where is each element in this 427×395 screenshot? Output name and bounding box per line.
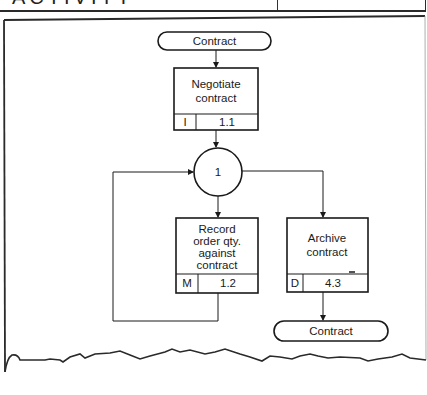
- process-number: 1.2: [220, 277, 236, 289]
- junction-circle: 1: [194, 148, 242, 196]
- process-number: 1.1: [219, 116, 235, 128]
- process-archive-contract: Archive contract D 4.3: [287, 218, 368, 292]
- process-code: M: [182, 277, 192, 289]
- process-code: D: [291, 277, 299, 289]
- process-label-line: Negotiate: [191, 78, 240, 90]
- process-code: I: [183, 116, 186, 128]
- process-label-line: Archive: [308, 232, 346, 244]
- process-negotiate-contract: Negotiate contract I 1.1: [174, 68, 258, 130]
- process-label-line: Record: [198, 223, 235, 235]
- flow-diagram: Contract Negotiate contract I 1.1 1 Reco…: [0, 0, 427, 395]
- process-label-line: contract: [196, 92, 238, 104]
- torn-edge: [5, 349, 426, 372]
- end-terminator: Contract: [274, 321, 388, 341]
- start-terminator: Contract: [158, 32, 271, 50]
- process-number: 4.3: [325, 277, 341, 289]
- start-terminator-label: Contract: [193, 35, 237, 47]
- process-label-line: contract: [307, 246, 349, 258]
- process-label-line: order qty.: [193, 235, 241, 247]
- arrow-junction-to-archive: [242, 171, 323, 217]
- process-label-line: contract: [197, 259, 239, 271]
- end-terminator-label: Contract: [309, 325, 353, 337]
- process-label-line: against: [198, 247, 236, 259]
- process-record-order-qty: Record order qty. against contract M 1.2: [176, 218, 258, 293]
- junction-label: 1: [215, 166, 221, 178]
